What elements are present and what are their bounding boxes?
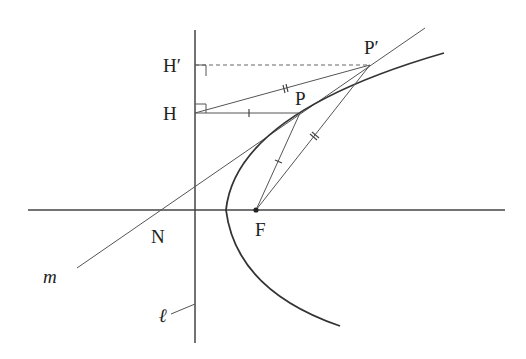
parabola-curve [226,53,444,326]
right-angle-marker-Hprime [195,65,206,76]
label-Pprime: P′ [364,37,379,58]
tangent-line-m [77,28,425,268]
label-P: P [295,88,306,109]
focus-point [253,207,258,212]
label-Hprime: H′ [163,55,181,76]
diagram-svg: H′ H P′ P N F m ℓ [0,0,526,359]
label-H: H [163,103,177,124]
label-m: m [43,266,57,287]
diagram-canvas: H′ H P′ P N F m ℓ [0,0,526,359]
label-N: N [151,226,165,247]
label-ell: ℓ [159,305,167,326]
segment-FPprime [256,65,370,210]
directrix-label-leader [171,304,195,314]
label-F: F [255,219,266,240]
